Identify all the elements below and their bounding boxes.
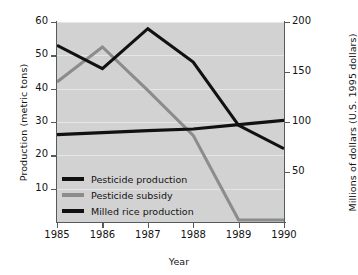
chart-legend: Pesticide production Pesticide subsidy M… <box>62 171 194 219</box>
x-axis-tick-label: 1986 <box>79 229 125 240</box>
legend-item: Milled rice production <box>62 203 194 219</box>
y-axis-right-title: Millions of dollars (U.S. 1995 dollars) <box>347 23 358 223</box>
y-axis-left-tick <box>51 55 56 56</box>
chart-container: 1020304050605010015020019851986198719881… <box>0 0 358 275</box>
x-axis-tick-label: 1990 <box>261 229 307 240</box>
legend-swatch-milled-rice-production <box>62 209 84 214</box>
legend-label-pesticide-subsidy: Pesticide subsidy <box>91 190 173 201</box>
x-axis-tick <box>148 223 149 228</box>
y-axis-left-tick <box>51 155 56 156</box>
y-axis-right-tick <box>285 172 290 173</box>
legend-item: Pesticide production <box>62 171 194 187</box>
legend-item: Pesticide subsidy <box>62 187 194 203</box>
x-axis-tick-label: 1989 <box>216 229 262 240</box>
y-axis-right-tick <box>285 122 290 123</box>
y-axis-right-tick-label: 50 <box>292 165 332 176</box>
x-axis-line <box>56 222 286 223</box>
y-axis-left-tick <box>51 89 56 90</box>
y-axis-left-tick <box>51 189 56 190</box>
y-axis-right-tick-label: 200 <box>292 15 332 26</box>
x-axis-tick <box>193 223 194 228</box>
y-axis-right-tick-label: 100 <box>292 115 332 126</box>
y-axis-left-tick <box>51 122 56 123</box>
y-axis-right-tick <box>285 72 290 73</box>
y-axis-right-tick-label: 150 <box>292 65 332 76</box>
x-axis-tick-label: 1987 <box>125 229 171 240</box>
y-axis-left-tick-label: 60 <box>8 15 48 26</box>
x-axis-tick <box>239 223 240 228</box>
legend-swatch-pesticide-production <box>62 177 84 182</box>
x-axis-tick <box>284 223 285 228</box>
x-axis-title: Year <box>0 256 358 267</box>
y-axis-right-tick <box>285 22 290 23</box>
y-axis-left-title: Production (metric tons) <box>18 38 29 208</box>
x-axis-tick-label: 1985 <box>34 229 80 240</box>
y-axis-left-tick <box>51 22 56 23</box>
legend-swatch-pesticide-subsidy <box>62 193 84 198</box>
x-axis-tick-label: 1988 <box>170 229 216 240</box>
legend-label-pesticide-production: Pesticide production <box>91 174 187 185</box>
x-axis-tick <box>102 223 103 228</box>
x-axis-tick <box>57 223 58 228</box>
legend-label-milled-rice-production: Milled rice production <box>91 206 194 217</box>
